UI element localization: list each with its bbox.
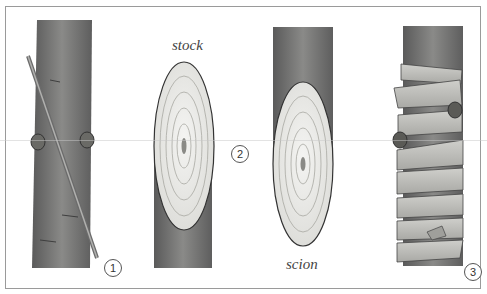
step-number-1: 1 xyxy=(104,259,122,277)
step-number-2: 2 xyxy=(231,145,249,163)
step-1-stem xyxy=(28,20,97,268)
step-2-stock xyxy=(154,62,214,268)
bud-icon xyxy=(31,134,45,150)
step-number-3: 3 xyxy=(464,263,482,281)
fold-line xyxy=(0,140,487,141)
stock-label: stock xyxy=(172,37,203,54)
step-3-wrapped-graft xyxy=(393,26,463,266)
scion-label: scion xyxy=(286,256,318,273)
step-2-scion xyxy=(273,27,333,246)
bud-icon xyxy=(448,102,462,118)
